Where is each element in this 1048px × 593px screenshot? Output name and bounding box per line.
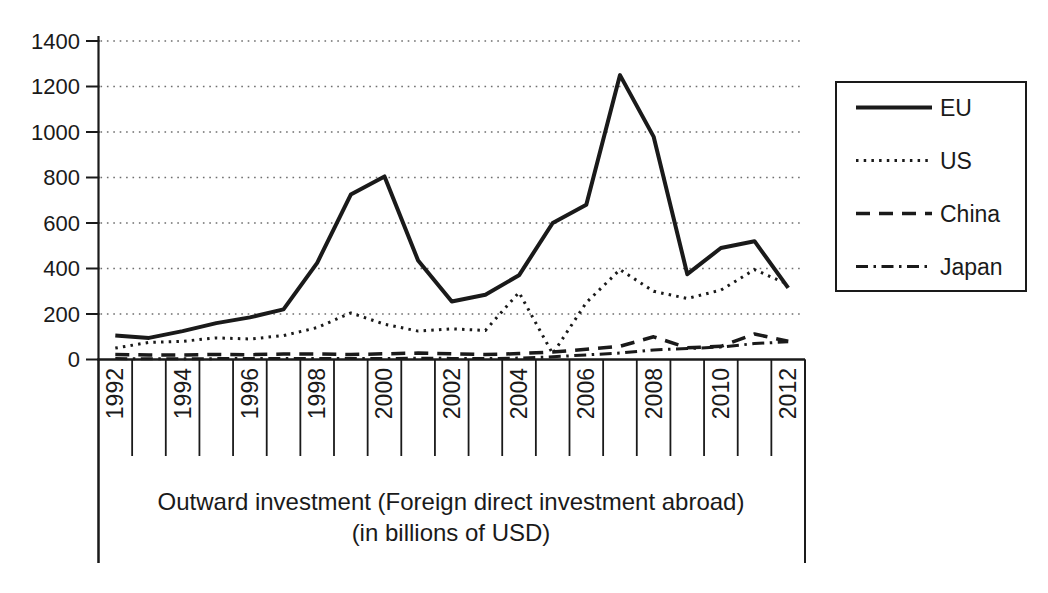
legend-item-eu: EU <box>856 95 972 121</box>
y-tick-label-1000: 1000 <box>31 120 80 145</box>
y-tick-label-200: 200 <box>43 302 80 327</box>
axis-title: Outward investment (Foreign direct inves… <box>158 488 745 515</box>
y-tick-label-400: 400 <box>43 256 80 281</box>
legend: EU US China Japan <box>836 82 1026 291</box>
series-line-eu <box>115 75 788 338</box>
data-series <box>115 75 788 359</box>
x-year-label-1996: 1996 <box>237 368 263 419</box>
x-year-label-1992: 1992 <box>102 368 128 419</box>
axis-subtitle: (in billions of USD) <box>352 519 551 546</box>
y-tick-label-1400: 1400 <box>31 29 80 54</box>
x-year-label-2006: 2006 <box>573 368 599 419</box>
legend-label-eu: EU <box>940 95 972 121</box>
y-axis: 0200400600800100012001400 <box>31 29 99 373</box>
x-year-label-2004: 2004 <box>506 368 532 419</box>
legend-item-us: US <box>856 148 972 174</box>
x-year-label-2010: 2010 <box>708 368 734 419</box>
y-tick-label-600: 600 <box>43 211 80 236</box>
x-axis-year-labels: 1992199419961998200020022004200620082010… <box>102 368 801 419</box>
x-year-label-2008: 2008 <box>641 368 667 419</box>
y-tick-label-0: 0 <box>68 347 80 372</box>
x-year-label-1998: 1998 <box>304 368 330 419</box>
x-year-label-1994: 1994 <box>170 368 196 419</box>
x-year-label-2012: 2012 <box>775 368 801 419</box>
x-year-label-2002: 2002 <box>439 368 465 419</box>
legend-label-china: China <box>940 201 1000 227</box>
series-line-us <box>115 270 788 354</box>
chart-canvas: 0200400600800100012001400 19921994199619… <box>0 0 1048 593</box>
y-tick-label-800: 800 <box>43 165 80 190</box>
x-year-label-2000: 2000 <box>371 368 397 419</box>
fdi-outward-investment-chart: 0200400600800100012001400 19921994199619… <box>0 0 1048 593</box>
gridlines <box>101 41 803 314</box>
legend-item-japan: Japan <box>856 254 1003 280</box>
legend-label-us: US <box>940 148 972 174</box>
y-tick-label-1200: 1200 <box>31 74 80 99</box>
legend-item-china: China <box>856 201 1000 227</box>
legend-label-japan: Japan <box>940 254 1003 280</box>
